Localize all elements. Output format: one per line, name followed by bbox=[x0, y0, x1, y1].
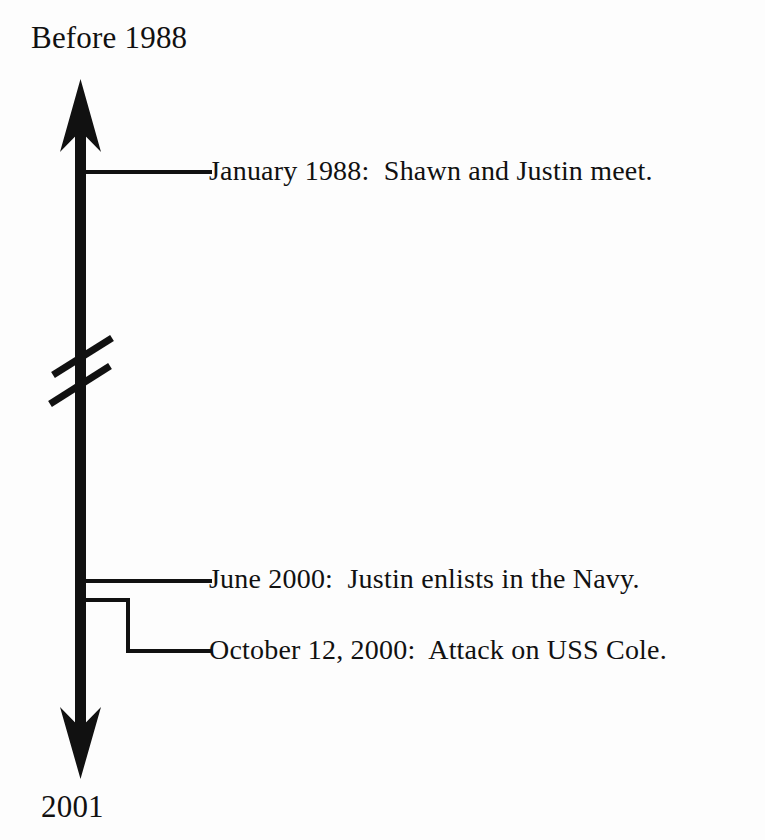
timeline-graphic bbox=[0, 0, 765, 840]
timeline-axis-line bbox=[75, 118, 86, 743]
event-label-october-2000: October 12, 2000: Attack on USS Cole. bbox=[209, 633, 667, 667]
event-connector-2 bbox=[80, 600, 212, 651]
event-label-june-2000: June 2000: Justin enlists in the Navy. bbox=[209, 562, 640, 596]
timeline-figure: Before 1988 January 1988: Shawn and Just… bbox=[0, 0, 765, 840]
timeline-start-label: Before 1988 bbox=[31, 19, 187, 57]
event-label-january-1988: January 1988: Shawn and Justin meet. bbox=[209, 154, 653, 188]
timeline-end-label: 2001 bbox=[41, 788, 104, 826]
